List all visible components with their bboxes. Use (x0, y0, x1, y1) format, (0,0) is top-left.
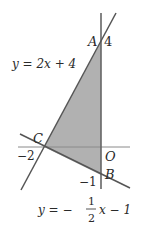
point-label-a: A (87, 34, 97, 49)
origin-label: O (105, 149, 116, 164)
coordinate-diagram: A 4 y = 2x + 4 C −2 O B −1 y = − 1 2 x −… (0, 0, 145, 230)
tick-label-neg2: −2 (17, 149, 35, 163)
equation-line1: y = 2x + 4 (11, 57, 76, 71)
tick-label-neg1: −1 (79, 175, 97, 189)
equation-line2-frac-den: 2 (88, 212, 95, 225)
point-label-c: C (33, 131, 43, 146)
equation-line2-frac-num: 1 (88, 195, 95, 208)
point-label-b: B (104, 167, 115, 182)
equation-line2-suffix: x − 1 (99, 203, 131, 217)
tick-label-4: 4 (104, 34, 112, 49)
equation-line2-prefix: y = − (37, 203, 73, 217)
